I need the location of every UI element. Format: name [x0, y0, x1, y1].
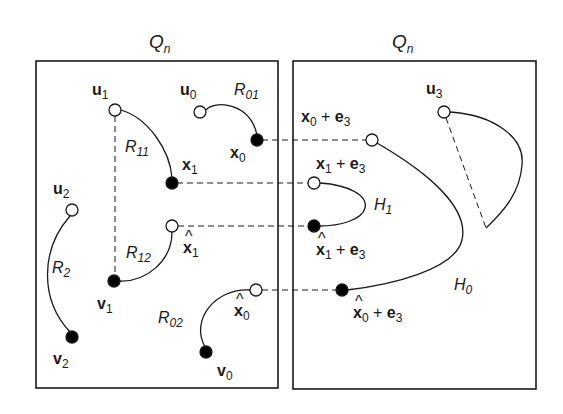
- label-u0: u0: [180, 81, 197, 102]
- label-x1: x1: [182, 156, 198, 177]
- hypercube-path-diagram: Qn Qn u1 u0 R: [0, 0, 563, 414]
- node-u3-open: [438, 106, 450, 118]
- label-u1: u1: [92, 81, 109, 102]
- node-xhat0-open: [250, 284, 262, 296]
- node-v1-closed: [108, 275, 120, 287]
- label-x0-plus-e3: x0 + e3: [301, 108, 351, 129]
- path-R01: [206, 105, 257, 135]
- node-xhat0e3-closed: [336, 284, 348, 296]
- node-x0e3-open: [366, 134, 378, 146]
- label-x1-plus-e3: x1 + e3: [316, 155, 366, 176]
- label-u3: u3: [426, 80, 443, 101]
- path-u3: [450, 112, 522, 228]
- hat-xhat0-e3: ^: [355, 293, 363, 310]
- label-v1: v1: [97, 295, 113, 316]
- label-v2: v2: [53, 350, 69, 371]
- label-R2: R2: [52, 259, 71, 280]
- hat-xhat1-e3: ^: [318, 230, 326, 247]
- label-v0: v0: [217, 362, 233, 383]
- node-x0-closed: [251, 134, 263, 146]
- node-xhat1-open: [166, 220, 178, 232]
- node-v2-closed: [66, 331, 78, 343]
- node-x1e3-open: [308, 177, 320, 189]
- label-u2: u2: [53, 180, 70, 201]
- hat-xhat0: ^: [236, 291, 244, 308]
- dashed-u3-tip: [446, 118, 486, 228]
- path-H1: [319, 183, 365, 226]
- label-R11: R11: [125, 138, 149, 159]
- node-u2-open: [66, 204, 78, 216]
- node-x1-closed: [166, 177, 178, 189]
- label-x0: x0: [230, 144, 246, 165]
- label-R02: R02: [158, 309, 183, 330]
- hat-xhat1: ^: [185, 228, 193, 245]
- label-H1: H1: [374, 196, 392, 217]
- node-v0-closed: [200, 346, 212, 358]
- label-R12: R12: [126, 244, 151, 265]
- label-R01: R01: [234, 81, 259, 102]
- left-panel-title: Qn: [149, 31, 171, 56]
- node-u1-open: [109, 104, 121, 116]
- node-u0-open: [194, 106, 206, 118]
- label-H0: H0: [454, 276, 473, 297]
- right-panel-title: Qn: [392, 31, 414, 56]
